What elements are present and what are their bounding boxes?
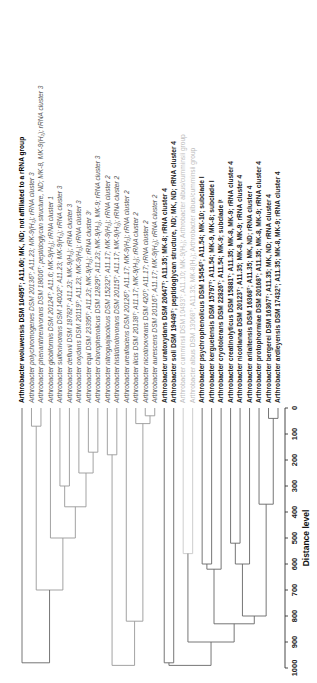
axis-title: Distance level bbox=[301, 510, 311, 567]
leaf-label: Arthrobacter kerguelensis DSM 15797ᵀ; A1… bbox=[208, 180, 216, 403]
leaf-label: Arthrobacter soli DSM 19449ᵀ; peptidogly… bbox=[170, 141, 178, 403]
axis-tick-label: 700 bbox=[290, 584, 299, 597]
leaf-label: Arthrobacter bergerei DSM 16367ᵀ; A11.35… bbox=[265, 194, 273, 403]
leaf-label: Arthrobacter polychromogenes DSM 20136ᵀ;… bbox=[28, 172, 36, 404]
leaf-label: Arthrobacter defluvii DSM 18782ᵀ; A11.23… bbox=[66, 204, 74, 404]
dendrogram-svg: Arthrobacter woluwensis DSM 10495ᵀ; A11.… bbox=[0, 0, 317, 683]
leaf-label: Arthrobacter nicotinovorans DSM 420ᵀ; A1… bbox=[142, 220, 149, 404]
leaf-label: Arthrobacter chlorophenolicus DSM 12829ᵀ… bbox=[94, 155, 102, 404]
leaf-label: Arthrobacter ardleyensis DSM 17432ᵀ; A11… bbox=[274, 171, 282, 403]
leaf-label: Arthrobacter psychrophenolicus DSM 15454… bbox=[198, 176, 206, 403]
leaf-label: Arthrobacter ilicis DSM 20138ᵀ; A11.17; … bbox=[132, 212, 140, 404]
leaf-label: Arthrobacter woluwensis DSM 10495ᵀ; A11.… bbox=[18, 137, 26, 403]
leaf-label: Arthrobacter phenanthrenivorans DSM 1860… bbox=[37, 85, 45, 404]
axis-tick-label: 400 bbox=[290, 506, 299, 519]
axis-tick-label: 800 bbox=[290, 610, 299, 623]
leaf-label: Arthrobacter nitroguajacolicus DSM 15232… bbox=[104, 175, 112, 404]
leaf-label: Arthrobacter ureafaciens DSM 20126ᵀ; A11… bbox=[123, 190, 131, 404]
leaf-label: Arthrobacter creatinolyticus DSM 15881ᵀ;… bbox=[227, 161, 235, 403]
leaf-label: Arthrobacter albus DSM 13068ᵀ; A11.35; M… bbox=[189, 147, 197, 403]
leaf-label: Arthrobacter cumminsii DSM 10493ᵀ; A11.1… bbox=[179, 134, 187, 403]
dendrogram-figure: Arthrobacter woluwensis DSM 10495ᵀ; A11.… bbox=[0, 0, 317, 683]
axis-tick-label: 300 bbox=[290, 480, 299, 493]
leaf-label: Arthrobacter nicotianae DSM 20123ᵀ; A11.… bbox=[236, 175, 244, 403]
axis-tick-label: 100 bbox=[290, 428, 299, 441]
leaf-label: Arthrobacter sulfonivorans DSM 14002ᵀ; A… bbox=[56, 185, 64, 404]
leaf-label: Arthrobacter protophormiae DSM 20168ᵀ; A… bbox=[255, 161, 263, 403]
axis-tick-label: 600 bbox=[290, 558, 299, 571]
leaf-label: Arthrobacter cryotolerans DSM 22826ᵀ; A1… bbox=[217, 199, 225, 403]
axis-tick-label: 900 bbox=[290, 636, 299, 649]
leaf-label: Arthrobacter oxydans DSM 20119ᵀ; A11.23;… bbox=[75, 200, 83, 404]
leaf-label: Arthrobacter equi DSM 23395ᵀ; A11.23; MK… bbox=[85, 210, 93, 404]
axis-tick-label: 1000 bbox=[290, 660, 299, 677]
leaf-label: Arthrobacter aurescens DSM 20116ᵀ; A11.1… bbox=[151, 194, 159, 404]
axis-tick-label: 0 bbox=[290, 406, 299, 410]
leaf-label: Arthrobacter uratoxydans DSM 20647ᵀ; A11… bbox=[161, 188, 169, 403]
axis-tick-label: 200 bbox=[290, 454, 299, 467]
leaf-label: Arthrobacter globiformis DSM 20124ᵀ; A11… bbox=[47, 196, 55, 404]
leaf-label: Arthrobacter histidinolovorans DSM 20115… bbox=[113, 175, 121, 404]
axis-tick-label: 500 bbox=[290, 532, 299, 545]
leaf-label: Arthrobacter arilaitensis DSM 16368ᵀ; A1… bbox=[246, 185, 254, 403]
